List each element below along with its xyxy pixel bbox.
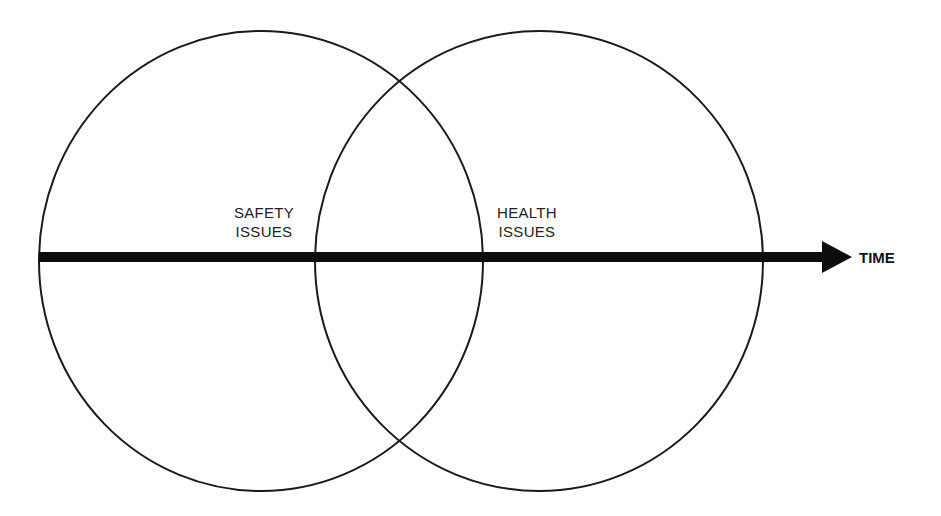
safety-label-line-1: SAFETY (214, 203, 314, 222)
venn-diagram (0, 0, 941, 516)
safety-label-line-2: ISSUES (214, 222, 314, 241)
time-axis-label: TIME (859, 249, 895, 266)
safety-issues-label: SAFETY ISSUES (214, 203, 314, 241)
health-issues-label: HEALTH ISSUES (477, 203, 577, 241)
health-label-line-1: HEALTH (477, 203, 577, 222)
health-label-line-2: ISSUES (477, 222, 577, 241)
time-axis-line (39, 252, 825, 262)
arrow-head-icon (822, 241, 852, 273)
